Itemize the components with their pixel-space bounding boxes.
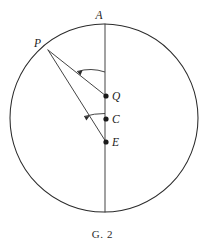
label-a: A (94, 9, 103, 21)
angle-arc-lower (84, 113, 105, 116)
label-p: P (33, 37, 41, 49)
geometric-figure-svg: A P Q C E (0, 0, 205, 251)
label-q: Q (112, 90, 121, 102)
segment-p-to-q (48, 50, 106, 96)
point-c-dot (103, 116, 108, 121)
label-c: C (112, 113, 120, 125)
label-e: E (111, 136, 119, 148)
point-q-dot (103, 93, 108, 98)
figure-container: A P Q C E G. 2 (0, 0, 205, 251)
figure-caption: G. 2 (0, 228, 205, 240)
point-e-dot (103, 139, 108, 144)
angle-arc-lower-arrowhead (84, 116, 89, 121)
segment-p-to-e (48, 50, 106, 142)
